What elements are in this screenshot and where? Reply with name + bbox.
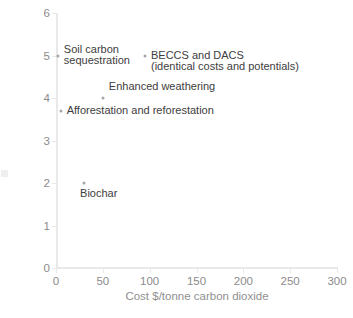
data-point-enhanced-weathering bbox=[101, 97, 104, 100]
y-tick-mark bbox=[52, 13, 56, 14]
point-label-beccs-and-dacs: BECCS and DACS(identical costs and poten… bbox=[151, 50, 299, 73]
y-tick-mark bbox=[52, 183, 56, 184]
plot-area: 0123456050100150200250300Soil carbonsequ… bbox=[56, 13, 337, 268]
x-axis-title: Cost $/tonne carbon dioxide bbox=[56, 290, 338, 302]
x-tick-label: 150 bbox=[187, 275, 206, 287]
x-tick-mark bbox=[150, 269, 151, 273]
y-tick-label: 3 bbox=[44, 135, 50, 147]
cut-off-caption-text bbox=[6, 309, 347, 316]
point-label-afforestation-and-reforestation: Afforestation and reforestation bbox=[67, 105, 214, 117]
y-tick-mark bbox=[52, 226, 56, 227]
y-tick-label: 5 bbox=[44, 50, 50, 62]
data-point-afforestation-and-reforestation bbox=[59, 109, 62, 112]
x-tick-label: 0 bbox=[53, 275, 59, 287]
x-tick-mark bbox=[56, 269, 57, 273]
scatter-chart-figure: 0123456050100150200250300Soil carbonsequ… bbox=[0, 0, 353, 318]
y-tick-label: 1 bbox=[44, 220, 50, 232]
data-point-soil-carbon-sequestration bbox=[56, 54, 59, 57]
x-tick-label: 300 bbox=[327, 275, 346, 287]
point-label-enhanced-weathering: Enhanced weathering bbox=[109, 81, 215, 93]
x-tick-label: 50 bbox=[96, 275, 109, 287]
point-label-soil-carbon-sequestration: Soil carbonsequestration bbox=[64, 44, 130, 67]
y-tick-mark bbox=[52, 98, 56, 99]
x-tick-label: 250 bbox=[281, 275, 300, 287]
point-label-line: Afforestation and reforestation bbox=[67, 105, 214, 117]
x-tick-mark bbox=[243, 269, 244, 273]
point-label-biochar: Biochar bbox=[80, 188, 117, 200]
point-label-line: Biochar bbox=[80, 188, 117, 200]
point-label-line: Enhanced weathering bbox=[109, 81, 215, 93]
x-tick-label: 200 bbox=[234, 275, 253, 287]
y-tick-mark bbox=[52, 141, 56, 142]
page-edge-artifact bbox=[1, 170, 8, 177]
point-label-line: sequestration bbox=[64, 55, 130, 67]
y-tick-label: 4 bbox=[44, 92, 50, 104]
x-tick-mark bbox=[337, 269, 338, 273]
data-point-biochar bbox=[83, 182, 86, 185]
x-tick-label: 100 bbox=[140, 275, 159, 287]
y-tick-label: 6 bbox=[44, 7, 50, 19]
x-tick-mark bbox=[103, 269, 104, 273]
data-point-beccs-and-dacs bbox=[143, 54, 146, 57]
x-tick-mark bbox=[197, 269, 198, 273]
x-tick-mark bbox=[290, 269, 291, 273]
y-tick-label: 2 bbox=[44, 177, 50, 189]
point-label-line: (identical costs and potentials) bbox=[151, 61, 299, 73]
y-tick-label: 0 bbox=[44, 262, 50, 274]
